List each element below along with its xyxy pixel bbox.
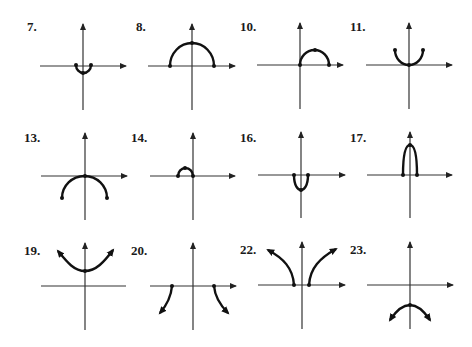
- endpoint-dot: [307, 283, 311, 287]
- graph-label: 10.: [240, 19, 256, 34]
- graph-label: 19.: [24, 243, 40, 258]
- graph-20: 20.: [131, 243, 236, 330]
- endpoint-dot: [176, 174, 180, 178]
- graph-14: 14.: [131, 130, 235, 220]
- graph-8: 8.: [136, 19, 235, 110]
- curve-right-branch: [410, 305, 430, 320]
- endpoint-dot: [393, 48, 397, 52]
- graph-10: 10.: [240, 19, 343, 109]
- endpoint-dot: [306, 173, 310, 177]
- graph-16: 16.: [240, 130, 345, 218]
- endpoint-dot: [415, 173, 419, 177]
- endpoint-dot: [421, 48, 425, 52]
- graph-7: 7.: [27, 19, 126, 110]
- endpoint-dot: [212, 64, 216, 68]
- graph-22: 22.: [240, 242, 345, 329]
- graph-label: 22.: [240, 242, 256, 257]
- vertex-dot: [83, 269, 87, 273]
- vertex-dot: [190, 41, 194, 45]
- curve-left-branch: [160, 286, 172, 313]
- vertex-dot: [408, 143, 412, 147]
- endpoint-dot: [168, 64, 172, 68]
- graphs-canvas: 7. 8. 10. 11. 13.: [0, 0, 472, 347]
- graph-13: 13.: [24, 130, 127, 220]
- curve-left-branch: [268, 250, 294, 285]
- graph-23: 23.: [350, 242, 453, 329]
- graph-label: 20.: [131, 243, 147, 258]
- graph-label: 7.: [27, 19, 37, 34]
- graph-19: 19.: [24, 243, 126, 330]
- graph-label: 14.: [131, 130, 147, 145]
- graph-label: 23.: [350, 242, 366, 257]
- vertex-dot: [83, 174, 87, 178]
- graph-11: 11.: [350, 19, 452, 109]
- curve-right-branch: [309, 249, 336, 285]
- curve-left-branch: [58, 251, 85, 271]
- graph-label: 11.: [350, 19, 366, 34]
- endpoint-dot: [292, 283, 296, 287]
- curve-left-branch: [390, 305, 410, 320]
- endpoint-dot: [191, 174, 195, 178]
- graph-label: 8.: [136, 19, 146, 34]
- vertex-dot: [183, 166, 187, 170]
- endpoint-dot: [105, 196, 109, 200]
- vertex-dot: [313, 48, 317, 52]
- curve-right-branch: [85, 250, 113, 271]
- endpoint-dot: [292, 173, 296, 177]
- graph-17: 17.: [350, 130, 452, 218]
- curve: [300, 50, 329, 65]
- vertex-dot: [407, 63, 411, 67]
- endpoint-dot: [60, 196, 64, 200]
- curve-right-branch: [214, 286, 228, 313]
- endpoint-dot: [170, 284, 174, 288]
- vertex-dot: [81, 71, 85, 75]
- vertex-dot: [299, 188, 303, 192]
- endpoint-dot: [298, 63, 302, 67]
- graph-label: 16.: [240, 130, 256, 145]
- endpoint-dot: [89, 63, 93, 67]
- endpoint-dot: [212, 284, 216, 288]
- vertex-dot: [408, 303, 412, 307]
- endpoint-dot: [401, 173, 405, 177]
- endpoint-dot: [74, 63, 78, 67]
- graph-label: 17.: [350, 130, 366, 145]
- graph-label: 13.: [24, 130, 40, 145]
- endpoint-dot: [327, 63, 331, 67]
